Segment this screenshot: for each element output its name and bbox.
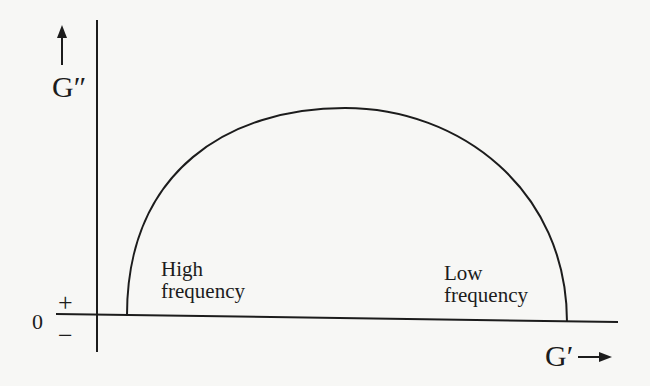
positive-sign: + <box>58 290 73 316</box>
low-frequency-line1: Low <box>444 262 528 284</box>
diagram-graphics <box>0 0 650 386</box>
x-axis-label: G′ <box>545 340 573 372</box>
y-axis-label: G″ <box>52 71 86 103</box>
high-frequency-line2: frequency <box>161 280 245 302</box>
arrow-up-icon <box>57 25 67 65</box>
arrow-right-icon <box>578 352 612 362</box>
high-frequency-label: High frequency <box>161 258 245 302</box>
low-frequency-label: Low frequency <box>444 262 528 306</box>
high-frequency-line1: High <box>161 258 245 280</box>
x-axis-line <box>56 314 618 322</box>
zero-label: 0 <box>32 310 43 333</box>
negative-sign: − <box>58 323 73 349</box>
low-frequency-line2: frequency <box>444 284 528 306</box>
diagram-canvas: G″ 0 + − High frequency Low frequency G′ <box>0 0 650 386</box>
